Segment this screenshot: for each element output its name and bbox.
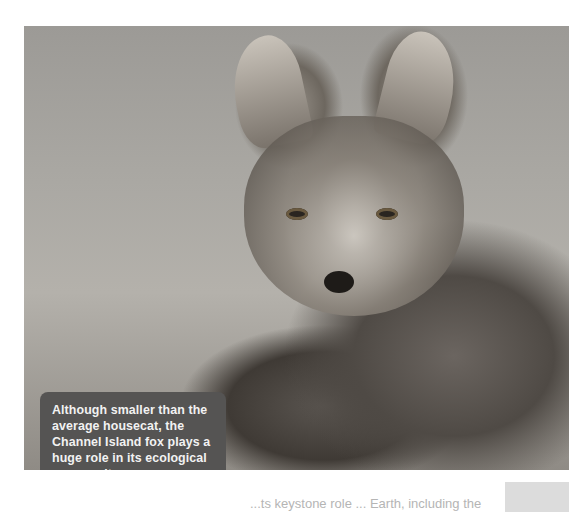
body-text-partial: ...ts keystone role ... Earth, including… (250, 496, 520, 511)
fox-left-eye (286, 208, 308, 220)
page-header-bleed (0, 0, 569, 26)
fox-face (244, 116, 464, 316)
page-side-tab (505, 482, 569, 512)
fox-right-eye (376, 208, 398, 220)
fox-nose (324, 271, 354, 293)
